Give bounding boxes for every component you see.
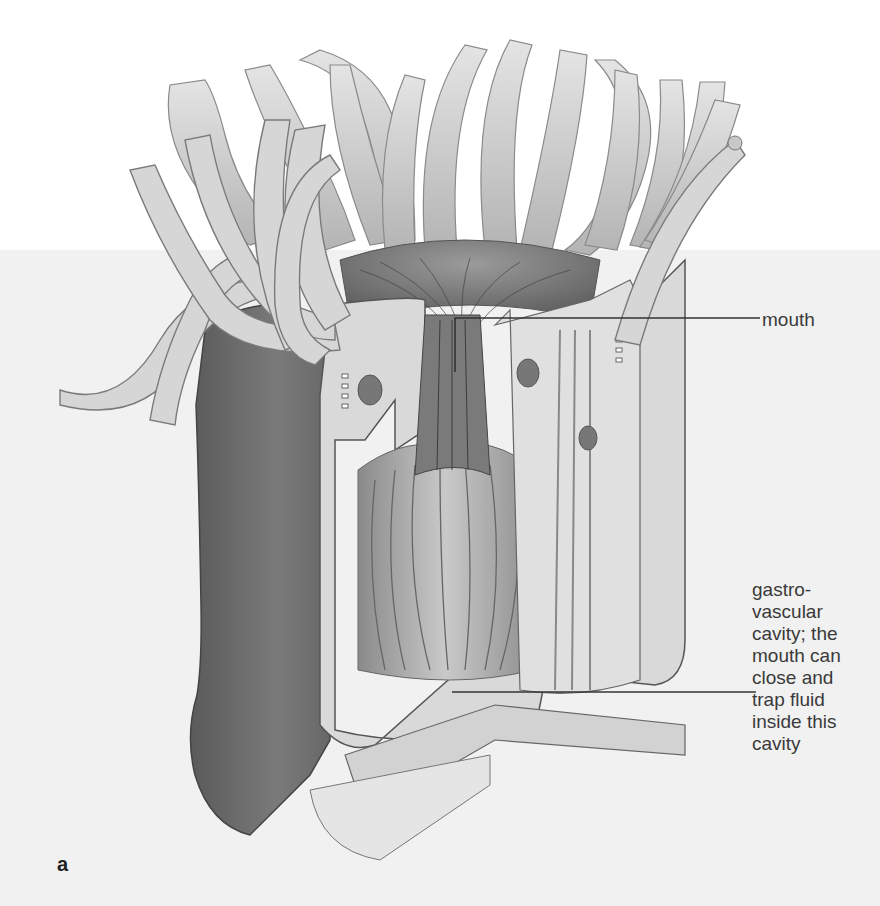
label-mouth: mouth [762,309,815,331]
label-line: vascular [752,601,880,623]
label-line: close and [752,667,880,689]
label-line: inside this [752,711,880,733]
label-gastrovascular-cavity: gastro- vascular cavity; the mouth can c… [752,579,880,755]
label-line: gastro- [752,579,880,601]
label-line: mouth can [752,645,880,667]
panel-letter: a [57,853,68,876]
body-column-exterior [190,305,335,835]
label-line: cavity [752,733,880,755]
label-line: trap fluid [752,689,880,711]
sea-anemone-illustration [0,0,880,906]
label-line: cavity; the [752,623,880,645]
